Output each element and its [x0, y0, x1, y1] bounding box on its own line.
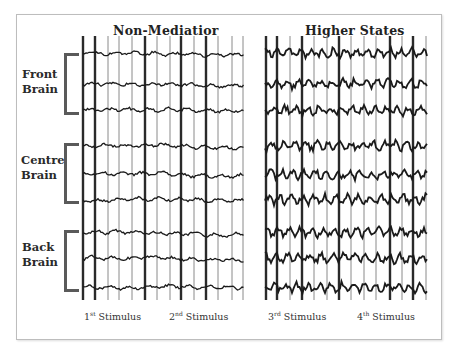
stimulus-label-3: 3rd Stimulus [268, 310, 326, 322]
stimulus-label-1: 1st Stimulus [84, 310, 141, 322]
eeg-traces [0, 0, 453, 352]
stimulus-label-2: 2nd Stimulus [169, 310, 228, 322]
stimulus-label-4: 4th Stimulus [357, 310, 415, 322]
